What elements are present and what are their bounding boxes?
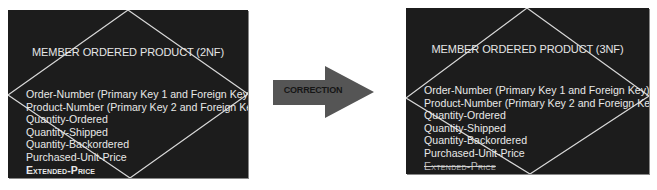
attribute-list: Order-Number (Primary Key 1 and Foreign … xyxy=(424,84,649,172)
arrow-label: CORRECTION xyxy=(273,85,353,95)
attribute-item: Order-Number (Primary Key 1 and Foreign … xyxy=(26,88,248,101)
derived-attribute-item: Extended-Price xyxy=(26,164,248,177)
attribute-item: Product-Number (Primary Key 2 and Foreig… xyxy=(424,97,649,110)
correction-arrow: CORRECTION xyxy=(273,66,375,118)
attribute-list: Order-Number (Primary Key 1 and Foreign … xyxy=(26,88,248,176)
attribute-item: Order-Number (Primary Key 1 and Foreign … xyxy=(424,84,649,97)
attribute-item: Product-Number (Primary Key 2 and Foreig… xyxy=(26,101,248,114)
entity-3nf: MEMBER ORDERED PRODUCT (3NF) Order-Numbe… xyxy=(406,8,649,174)
entity-title: MEMBER ORDERED PRODUCT (2NF) xyxy=(8,46,248,58)
attribute-item: Quantity-Ordered xyxy=(424,109,649,122)
attribute-item: Quantity-Backordered xyxy=(26,138,248,151)
attribute-item: Quantity-Ordered xyxy=(26,113,248,126)
attribute-item: Quantity-Backordered xyxy=(424,134,649,147)
attribute-item: Purchased-Unit-Price xyxy=(26,151,248,164)
attribute-item: Quantity-Shipped xyxy=(26,126,248,139)
attribute-item: Purchased-Unit-Price xyxy=(424,147,649,160)
removed-attribute-item: Extended-Price xyxy=(424,160,649,173)
entity-title: MEMBER ORDERED PRODUCT (3NF) xyxy=(406,43,649,55)
attribute-item: Quantity-Shipped xyxy=(424,122,649,135)
entity-2nf: MEMBER ORDERED PRODUCT (2NF) Order-Numbe… xyxy=(8,10,248,178)
